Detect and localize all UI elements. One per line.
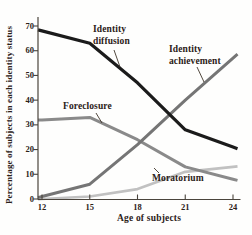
y-tick-label: 0 bbox=[8, 194, 34, 205]
series-label-text: Identity bbox=[93, 24, 130, 36]
y-tick-label: 40 bbox=[8, 95, 34, 106]
y-tick-label: 60 bbox=[8, 45, 34, 56]
series-label-text: diffusion bbox=[93, 36, 130, 48]
y-tick-label: 30 bbox=[8, 119, 34, 130]
series-label-foreclosure: Foreclosure bbox=[63, 101, 112, 113]
series-label-identity-diffusion: Identity diffusion bbox=[93, 24, 130, 47]
x-tick-label: 21 bbox=[175, 202, 195, 213]
x-tick-label: 15 bbox=[80, 202, 100, 213]
y-tick-label: 20 bbox=[8, 144, 34, 155]
series-label-text: achievement bbox=[169, 56, 221, 68]
series-label-text: Foreclosure bbox=[63, 101, 112, 113]
x-tick-label: 24 bbox=[223, 202, 243, 213]
x-axis-title: Age of subjects bbox=[99, 213, 199, 223]
series-label-moratorium: Moratorium bbox=[152, 173, 204, 185]
series-label-text: Identity bbox=[169, 44, 221, 56]
x-tick-label: 12 bbox=[32, 202, 52, 213]
y-tick-label: 10 bbox=[8, 169, 34, 180]
series-label-identity-achievement: Identity achievement bbox=[169, 44, 221, 67]
y-tick-label: 50 bbox=[8, 70, 34, 81]
y-tick-label: 70 bbox=[8, 21, 34, 32]
identity-status-line-chart: Percentage of subjects in each identity … bbox=[0, 0, 252, 235]
series-label-text: Moratorium bbox=[152, 173, 204, 185]
x-tick-label: 18 bbox=[128, 202, 148, 213]
